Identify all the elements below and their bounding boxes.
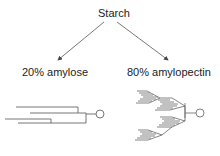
amylopectin-structure: [135, 91, 204, 140]
diagram-canvas: [0, 0, 220, 156]
reducing-end-icon: [96, 110, 104, 118]
reducing-end-icon: [196, 109, 204, 117]
amylose-structure: [5, 107, 104, 123]
arrow-to-amylose: [58, 22, 104, 60]
arrow-to-amylopectin: [117, 22, 168, 60]
